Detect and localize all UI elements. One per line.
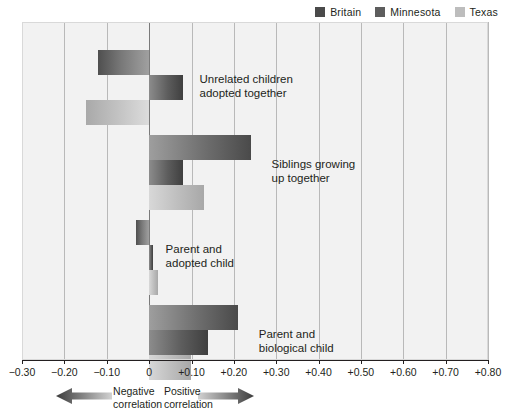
x-axis-tick-mark xyxy=(319,360,320,364)
bar-texas-group-0 xyxy=(86,100,150,125)
gridline xyxy=(319,22,320,360)
group-label-unrelated-children: Unrelated children adopted together xyxy=(200,72,293,100)
x-axis-tick-label: +0.80 xyxy=(475,366,502,378)
x-axis-tick-mark xyxy=(361,360,362,364)
gridline xyxy=(403,22,404,360)
x-axis-tick-label: −0.10 xyxy=(93,366,120,378)
legend: Britain Minnesota Texas xyxy=(315,4,498,20)
positive-correlation-label: Positive correlation xyxy=(164,385,213,411)
x-axis-tick-label: +0.40 xyxy=(305,366,332,378)
gridline xyxy=(361,22,362,360)
x-axis-tick-label: +0.70 xyxy=(432,366,459,378)
x-axis-tick-mark xyxy=(192,360,193,364)
legend-swatch-britain xyxy=(315,7,325,17)
group-label-parent-adopted: Parent and adopted child xyxy=(166,242,234,270)
x-axis-tick-mark xyxy=(22,360,23,364)
negative-correlation-label: Negative correlation xyxy=(113,385,162,411)
x-axis-tick-mark xyxy=(149,360,150,364)
legend-swatch-minnesota xyxy=(375,7,385,17)
x-axis-tick-mark xyxy=(107,360,108,364)
x-axis-tick-label: +0.60 xyxy=(390,366,417,378)
x-axis-tick-label: 0 xyxy=(146,366,152,378)
legend-item-britain: Britain xyxy=(315,6,361,18)
bar-britain-group-0 xyxy=(98,50,149,75)
group-label-siblings: Siblings growing up together xyxy=(272,157,356,185)
x-axis-tick-label: +0.10 xyxy=(178,366,205,378)
bar-minnesota-group-0 xyxy=(149,75,183,100)
group-label-parent-biological: Parent and biological child xyxy=(259,327,334,355)
x-axis-line xyxy=(22,360,488,361)
bar-minnesota-group-2 xyxy=(149,245,153,270)
legend-item-texas: Texas xyxy=(455,6,498,18)
x-axis-tick-label: +0.50 xyxy=(348,366,375,378)
bar-britain-group-3 xyxy=(149,305,238,330)
gridline xyxy=(488,22,489,360)
bar-texas-group-1 xyxy=(149,185,204,210)
legend-swatch-texas xyxy=(455,7,465,17)
chart-plot-area: Unrelated children adopted together Sibl… xyxy=(22,22,488,360)
legend-item-minnesota: Minnesota xyxy=(375,6,440,18)
legend-label-minnesota: Minnesota xyxy=(390,6,440,18)
bar-britain-group-2 xyxy=(136,220,149,245)
left-arrow-icon xyxy=(56,388,112,404)
gridline xyxy=(22,22,23,360)
bar-minnesota-group-1 xyxy=(149,160,183,185)
bar-britain-group-1 xyxy=(149,135,251,160)
x-axis-tick-label: −0.20 xyxy=(51,366,78,378)
x-axis-tick-mark xyxy=(276,360,277,364)
x-axis-tick-mark xyxy=(446,360,447,364)
legend-label-texas: Texas xyxy=(470,6,498,18)
gridline xyxy=(64,22,65,360)
x-axis-tick-mark xyxy=(488,360,489,364)
legend-label-britain: Britain xyxy=(330,6,361,18)
x-axis-tick-mark xyxy=(64,360,65,364)
x-axis-tick-label: +0.20 xyxy=(221,366,248,378)
x-axis-tick-label: +0.30 xyxy=(263,366,290,378)
x-axis-tick-mark xyxy=(234,360,235,364)
x-axis-tick-label: −0.30 xyxy=(9,366,36,378)
bar-minnesota-group-3 xyxy=(149,330,208,355)
gridline xyxy=(446,22,447,360)
bar-texas-group-2 xyxy=(149,270,158,295)
x-axis-tick-mark xyxy=(403,360,404,364)
